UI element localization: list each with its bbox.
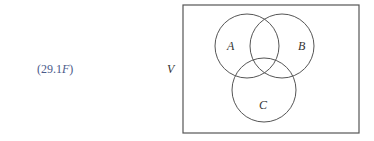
set-label-a: A: [226, 39, 235, 53]
set-label-c: C: [259, 98, 268, 112]
set-circle-c: [232, 58, 296, 122]
set-circle-a: [215, 14, 279, 78]
venn-diagram: ABC: [0, 0, 374, 141]
set-label-b: B: [298, 39, 306, 53]
